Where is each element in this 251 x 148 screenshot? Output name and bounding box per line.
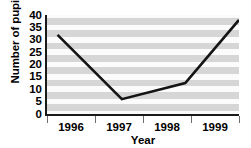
x-axis-tick-mark xyxy=(239,116,240,123)
y-axis-tick-label: 0 xyxy=(22,108,42,121)
data-series-line xyxy=(47,15,239,114)
plot-area xyxy=(47,15,239,114)
y-axis-tick-label: 15 xyxy=(22,70,42,83)
x-axis-line xyxy=(45,114,239,116)
series-number-of-pupils xyxy=(58,20,239,99)
y-axis-tick-label: 30 xyxy=(22,33,42,46)
y-axis-title: Number of pupils xyxy=(7,0,23,89)
y-axis-tick-label: 5 xyxy=(22,95,42,108)
line-chart-figure: Number of pupils 0510152025303540 199619… xyxy=(0,0,251,148)
y-axis-tick-labels: 0510152025303540 xyxy=(22,10,42,122)
y-axis-tick-label: 40 xyxy=(22,9,42,22)
x-axis-title: Year xyxy=(47,133,239,147)
y-axis-tick-label: 25 xyxy=(22,46,42,59)
y-axis-tick-label: 10 xyxy=(22,83,42,96)
y-axis-tick-label: 20 xyxy=(22,58,42,71)
y-axis-tick-label: 35 xyxy=(22,21,42,34)
